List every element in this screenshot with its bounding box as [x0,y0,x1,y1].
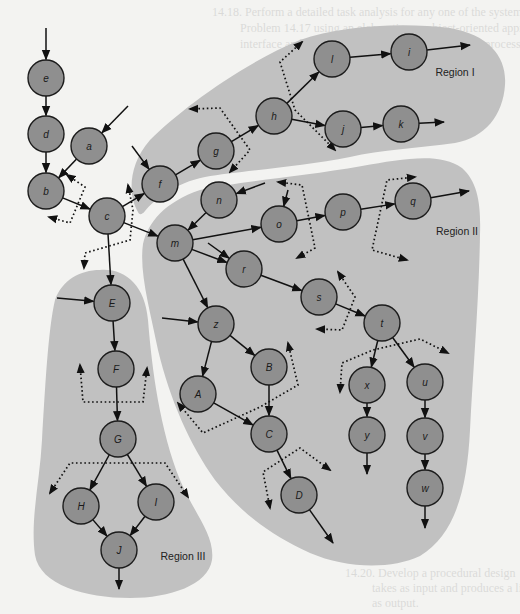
node-J: J [101,532,137,568]
node-label: y [364,430,371,441]
node-H: H [63,488,99,524]
node-label: u [422,377,428,388]
node-label: H [77,501,85,512]
node-r: r [226,251,262,287]
node-label: p [339,207,346,218]
node-h: h [256,98,292,134]
node-a: a [71,128,107,164]
node-label: G [114,434,122,445]
node-I: I [138,484,174,520]
node-C: C [251,416,287,452]
node-D: D [281,477,317,513]
region-iii-label: Region III [161,550,206,562]
node-y: y [349,417,385,453]
node-i: i [391,34,427,70]
node-label: n [216,195,222,206]
node-m: m [157,225,193,261]
node-n: n [201,182,237,218]
node-label: D [295,490,302,501]
node-label: g [213,146,219,157]
node-F: F [98,351,134,387]
edge-F-G [117,387,118,421]
node-E: E [94,285,130,321]
node-label: E [109,298,116,309]
node-label: a [86,141,92,152]
node-d: d [28,116,64,152]
edge-b-c [63,198,90,209]
node-label: J [116,545,123,556]
node-o: o [261,206,297,242]
node-f: f [142,166,178,202]
node-e: e [28,60,64,96]
node-label: h [271,111,277,122]
node-label: o [276,219,282,230]
node-label: x [364,380,371,391]
input-arrow-a [102,106,128,133]
node-label: z [213,319,219,330]
node-label: c [105,211,110,222]
node-label: w [421,483,429,494]
node-z: z [198,306,234,342]
region-i-label: Region I [435,66,474,78]
node-label: q [410,196,416,207]
node-j: j [325,111,361,147]
node-b: b [28,173,64,209]
node-G: G [100,421,136,457]
node-label: d [43,129,49,140]
node-label: s [317,292,322,303]
node-label: b [43,186,49,197]
node-s: s [301,279,337,315]
node-A: A [180,376,216,412]
node-w: w [407,470,443,506]
node-q: q [395,183,431,219]
region-ii-label: Region II [436,225,478,237]
node-label: B [266,362,273,373]
node-label: m [171,238,179,249]
node-label: F [113,364,120,375]
node-l: l [314,41,350,77]
node-t: t [364,305,400,341]
partition-diagram: Region I Region II Region III edabcfghli… [0,0,520,614]
node-label: I [155,497,158,508]
node-c: c [89,198,125,234]
node-p: p [325,194,361,230]
node-g: g [198,133,234,169]
node-B: B [251,349,287,385]
node-label: C [265,429,273,440]
node-v: v [407,418,443,454]
node-label: A [194,389,202,400]
node-x: x [349,367,385,403]
node-k: k [383,106,419,142]
node-u: u [407,364,443,400]
node-label: e [43,73,49,84]
